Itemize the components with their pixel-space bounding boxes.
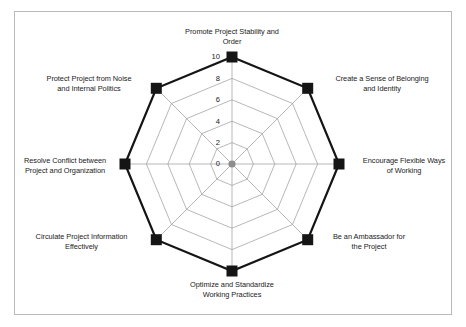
axis-label-protect-project-from-noise-and-internal-politics: Protect Project from Noise and Internal …	[29, 74, 149, 93]
data-point-marker	[302, 234, 313, 245]
tick-label-4: 4	[206, 118, 220, 126]
tick-label-8: 8	[206, 75, 220, 83]
axis-label-resolve-conflict-between-project-and-organization: Resolve Conflict between Project and Org…	[13, 156, 117, 175]
data-point-marker	[334, 159, 345, 170]
axis-label-create-a-sense-of-belonging-and-identity: Create a Sense of Belonging and Identity	[317, 74, 447, 93]
axis-label-line: Optimize and Standardize	[166, 280, 298, 290]
axis-label-line: Protect Project from Noise	[29, 74, 149, 84]
axis-label-line: Be an Ambassador for	[317, 232, 421, 242]
axis-label-line: the Project	[317, 242, 421, 252]
axis-label-line: Circulate Project Information	[15, 232, 148, 242]
data-point-marker	[151, 83, 162, 94]
axis-label-line: Promote Project Stability and	[165, 27, 299, 37]
axis-label-encourage-flexible-ways-of-working: Encourage Flexible Ways of Working	[348, 156, 460, 175]
axis-label-line: of Working	[348, 166, 460, 176]
axis-label-line: and Internal Politics	[29, 84, 149, 94]
data-point-marker	[151, 234, 162, 245]
data-point-marker	[120, 159, 131, 170]
radar-chart: 10 8 6 4 2 0 Promote Project Stability a…	[0, 0, 466, 327]
axis-label-line: Create a Sense of Belonging	[317, 74, 447, 84]
center-origin-dot	[228, 160, 235, 167]
data-point-marker	[227, 52, 238, 63]
axis-label-promote-project-stability-and-order: Promote Project Stability and Order	[165, 27, 299, 46]
axis-label-line: and Identity	[317, 84, 447, 94]
axis-label-line: Effectively	[15, 242, 148, 252]
axis-label-be-an-ambassador-for-the-project: Be an Ambassador for the Project	[317, 232, 421, 251]
tick-label-10: 10	[206, 53, 220, 61]
axis-label-circulate-project-information-effectively: Circulate Project Information Effectivel…	[15, 232, 148, 251]
axis-label-line: Project and Organization	[13, 166, 117, 176]
axis-label-line: Working Practices	[166, 290, 298, 300]
axis-label-line: Resolve Conflict between	[13, 156, 117, 166]
tick-label-2: 2	[206, 139, 220, 147]
tick-label-6: 6	[206, 96, 220, 104]
axis-label-line: Encourage Flexible Ways	[348, 156, 460, 166]
data-point-marker	[227, 266, 238, 277]
tick-label-0: 0	[206, 160, 220, 168]
figure-container: 10 8 6 4 2 0 Promote Project Stability a…	[0, 0, 466, 327]
axis-label-optimize-and-standardize-working-practices: Optimize and Standardize Working Practic…	[166, 280, 298, 299]
axis-label-line: Order	[165, 37, 299, 47]
data-point-marker	[302, 83, 313, 94]
